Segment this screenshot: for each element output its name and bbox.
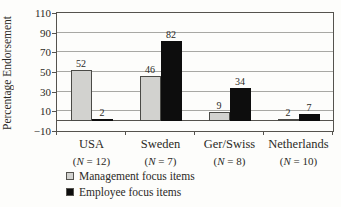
management-series-swatch-icon [66, 172, 74, 180]
bar-value-label: 52 [76, 58, 86, 69]
bar-value-label: 9 [217, 100, 222, 111]
x-boundary-tick [194, 132, 195, 135]
y-axis-title: Percentage Endorsement [1, 8, 13, 138]
bar-employee-Ger/Swiss [230, 88, 251, 121]
bar-employee-Netherlands [299, 114, 320, 121]
x-boundary-tick [125, 132, 126, 135]
gridline [57, 51, 333, 52]
bar-management-Ger/Swiss [209, 112, 230, 121]
gridline [57, 91, 333, 92]
x-boundary-tick [263, 132, 264, 135]
employee-series-swatch-icon [66, 188, 74, 196]
category-n-label-Netherlands: (N = 10) [280, 155, 317, 167]
legend-item-employee-focus: Employee focus items [66, 184, 195, 199]
y-tick-label: 30 [17, 85, 51, 99]
bar-value-label: 7 [307, 102, 312, 113]
category-label-Sweden: Sweden [141, 137, 181, 152]
endorsement-bar-chart: Percentage Endorsement 1109070503010−10 … [0, 0, 341, 207]
x-boundary-tick [332, 132, 333, 135]
category-n-label-USA: (N = 12) [73, 155, 110, 167]
bar-value-label: 2 [100, 107, 105, 118]
bar-employee-USA [92, 119, 113, 121]
bar-value-label: 2 [286, 107, 291, 118]
y-tick-label: 70 [17, 45, 51, 59]
bar-management-USA [71, 70, 92, 121]
bar-value-label: 82 [166, 29, 176, 40]
legend-item-management-focus: Management focus items [66, 168, 195, 183]
y-tick-label: 110 [17, 6, 51, 20]
bar-management-Sweden [140, 76, 161, 121]
x-boundary-tick [56, 132, 57, 135]
category-label-Ger/Swiss: Ger/Swiss [204, 137, 255, 152]
bar-employee-Sweden [161, 41, 182, 122]
category-n-label-Ger/Swiss: (N = 8) [214, 155, 246, 167]
legend: Management focus items Employee focus it… [66, 168, 195, 200]
plot-area: 522468293427 [56, 12, 334, 132]
gridline [57, 110, 333, 111]
y-tick-label: 10 [17, 104, 51, 118]
legend-label-employee: Employee focus items [79, 186, 181, 198]
category-label-Netherlands: Netherlands [268, 137, 328, 152]
bar-value-label: 34 [235, 76, 245, 87]
bar-value-label: 46 [145, 64, 155, 75]
legend-label-management: Management focus items [79, 170, 195, 182]
y-tick-label: 90 [17, 26, 51, 40]
category-n-label-Sweden: (N = 7) [145, 155, 177, 167]
category-label-USA: USA [79, 137, 104, 152]
y-tick-label: 50 [17, 65, 51, 79]
gridline [57, 71, 333, 72]
gridline [57, 32, 333, 33]
bar-management-Netherlands [278, 119, 299, 121]
y-tick-label: −10 [17, 124, 51, 138]
